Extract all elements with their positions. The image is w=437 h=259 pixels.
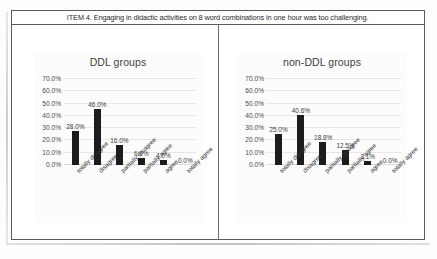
chart-title-ddl: DDL groups <box>34 56 202 68</box>
bar-data-label: 40.6% <box>292 107 310 114</box>
bar-series: 28.0%46.0%16.0%6.0%4.0%0.0% <box>64 79 196 165</box>
figure-table: ITEM 4. Engaging in didactic activities … <box>11 10 425 240</box>
y-axis-tick-label: 50.0% <box>245 99 264 106</box>
bar-slot: 0.0% <box>379 79 401 165</box>
figure-caption: ITEM 4. Engaging in didactic activities … <box>67 13 369 22</box>
y-axis-tick-label: 30.0% <box>245 124 264 131</box>
x-axis-labels-ddl: totally disagreedisagreepartially disagr… <box>64 167 196 219</box>
bar <box>72 131 79 165</box>
bar <box>364 161 371 165</box>
y-axis-tick-label: 60.0% <box>245 87 264 94</box>
x-axis-labels-non-ddl: totally disagreedisagreepartially disagr… <box>267 167 401 219</box>
y-axis-tick-label: 10.0% <box>245 148 264 155</box>
y-axis-tick-label: 60.0% <box>42 87 61 94</box>
y-axis-tick-label: 20.0% <box>245 136 264 143</box>
bar-slot: 25.0% <box>267 79 289 165</box>
y-axis-tick-label: 40.0% <box>245 111 264 118</box>
bar <box>160 160 167 165</box>
plot-area-ddl: 0.0%10.0%20.0%30.0%40.0%50.0%60.0%70.0%2… <box>64 79 196 165</box>
y-axis-tick-label: 70.0% <box>42 75 61 82</box>
bar <box>275 134 282 165</box>
chart-panel-ddl: DDL groups 0.0%10.0%20.0%30.0%40.0%50.0%… <box>34 53 202 223</box>
bar-slot: 0.0% <box>174 79 196 165</box>
scan-edge-bottom <box>6 243 430 245</box>
y-axis-tick-label: 70.0% <box>245 75 264 82</box>
bar-series: 25.0%40.6%18.8%12.5%3.1%0.0% <box>267 79 401 165</box>
bar-data-label: 25.0% <box>269 126 287 133</box>
chart-panel-non-ddl: non-DDL groups 0.0%10.0%20.0%30.0%40.0%5… <box>237 53 407 223</box>
bar-data-label: 18.8% <box>314 134 332 141</box>
y-axis-tick-label: 30.0% <box>42 124 61 131</box>
bar-data-label: 28.0% <box>66 123 84 130</box>
chart-cell-non-ddl: non-DDL groups 0.0%10.0%20.0%30.0%40.0%5… <box>219 25 424 239</box>
y-axis-tick-label: 40.0% <box>42 111 61 118</box>
y-axis-tick-label: 0.0% <box>249 161 264 168</box>
y-axis-tick-label: 20.0% <box>42 136 61 143</box>
plot-area-non-ddl: 0.0%10.0%20.0%30.0%40.0%50.0%60.0%70.0%2… <box>267 79 401 165</box>
bar-slot: 16.0% <box>108 79 130 165</box>
bar-data-label: 46.0% <box>88 101 106 108</box>
bar-slot: 18.8% <box>312 79 334 165</box>
bar-slot: 28.0% <box>64 79 86 165</box>
figure-caption-row: ITEM 4. Engaging in didactic activities … <box>12 11 424 25</box>
chart-cell-ddl: DDL groups 0.0%10.0%20.0%30.0%40.0%50.0%… <box>12 25 219 239</box>
bar-data-label: 16.0% <box>110 137 128 144</box>
y-axis-tick-label: 50.0% <box>42 99 61 106</box>
y-axis-tick-label: 0.0% <box>46 161 61 168</box>
figure-body-row: DDL groups 0.0%10.0%20.0%30.0%40.0%50.0%… <box>12 25 424 239</box>
y-axis-tick-label: 10.0% <box>42 148 61 155</box>
chart-title-non-ddl: non-DDL groups <box>237 56 407 68</box>
scan-edge-left <box>6 12 8 243</box>
scanned-page: ITEM 4. Engaging in didactic activities … <box>0 0 437 259</box>
